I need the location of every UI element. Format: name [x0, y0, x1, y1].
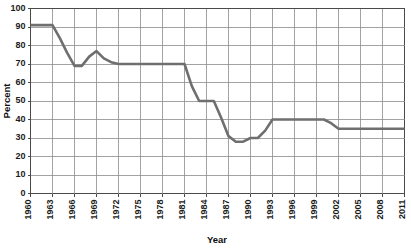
y-tick-label: 70 — [15, 58, 25, 68]
x-tick-label: 1990 — [243, 200, 253, 220]
y-axis-tick-labels: 0102030405060708090100 — [10, 3, 25, 198]
y-tick-label: 90 — [15, 21, 25, 31]
x-tick-label: 2002 — [331, 200, 341, 220]
y-tick-label: 0 — [20, 188, 25, 198]
x-tick-label: 1975 — [133, 200, 143, 220]
x-tick-label: 1993 — [265, 200, 275, 220]
x-tick-label: 1963 — [45, 200, 55, 220]
y-tick-label: 30 — [15, 132, 25, 142]
x-tick-label: 1999 — [309, 200, 319, 220]
y-tick-label: 40 — [15, 114, 25, 124]
y-tick-label: 50 — [15, 95, 25, 105]
x-tick-label: 1984 — [199, 200, 209, 220]
x-tick-label: 1972 — [111, 200, 121, 220]
x-tick-label: 1987 — [221, 200, 231, 220]
y-tick-label: 10 — [15, 169, 25, 179]
x-tick-label: 2005 — [353, 200, 363, 220]
x-axis-title: Year — [207, 234, 227, 245]
x-tick-label: 1981 — [177, 200, 187, 220]
y-tick-label: 20 — [15, 151, 25, 161]
x-tick-label: 1966 — [67, 200, 77, 220]
chart-canvas: 0102030405060708090100 19601963196619691… — [0, 0, 411, 252]
y-axis-title: Percent — [1, 83, 12, 119]
x-tick-label: 1996 — [287, 200, 297, 220]
x-tick-label: 1969 — [89, 200, 99, 220]
x-axis-tick-labels: 1960196319661969197219751978198119841987… — [23, 200, 407, 220]
x-tick-label: 1960 — [23, 200, 33, 220]
x-tick-label: 1978 — [155, 200, 165, 220]
y-tick-label: 100 — [10, 3, 25, 13]
line-chart: 0102030405060708090100 19601963196619691… — [0, 0, 411, 252]
x-tick-label: 2008 — [375, 200, 385, 220]
x-tick-label: 2011 — [397, 200, 407, 220]
y-tick-label: 80 — [15, 40, 25, 50]
y-tick-label: 60 — [15, 77, 25, 87]
